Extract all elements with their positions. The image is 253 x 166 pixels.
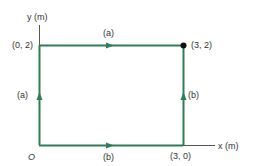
path-label-a-left: (a) [17, 90, 28, 100]
point-label-bottom-right: (3, 0) [170, 151, 191, 161]
arrow-up-icon [37, 92, 43, 100]
point-label-top-left: (0, 2) [12, 40, 33, 50]
path-label-b-right: (b) [188, 90, 199, 100]
point-label-top-right: (3, 2) [191, 40, 212, 50]
path-label-a-top: (a) [103, 28, 114, 38]
arrow-right-icon [106, 143, 114, 149]
x-axis-label: x (m) [218, 141, 239, 151]
path-label-b-bottom: (b) [103, 152, 114, 162]
path-diagram: y (m) x (m) O (0, 2) (3, 2) (3, 0) (a) (… [0, 0, 253, 166]
origin-label: O [28, 152, 35, 162]
arrow-right-icon [106, 43, 114, 49]
arrow-up-icon [181, 92, 187, 100]
y-axis-label: y (m) [27, 12, 48, 22]
endpoint-dot [181, 43, 187, 49]
